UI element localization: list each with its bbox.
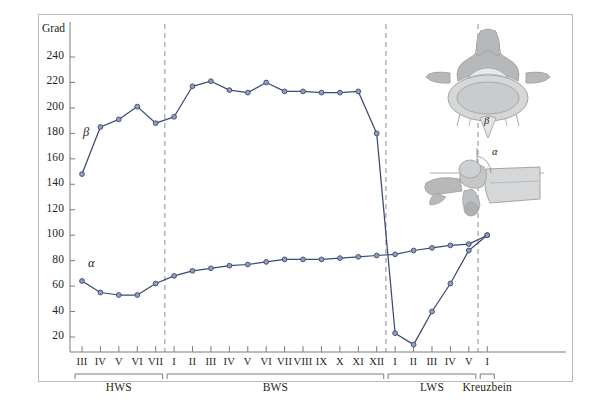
data-point-marker: [172, 114, 177, 119]
data-point-marker: [245, 262, 250, 267]
data-point-marker: [485, 233, 490, 238]
data-point-marker: [301, 257, 306, 262]
data-point-marker: [264, 260, 269, 265]
data-point-marker: [411, 248, 416, 253]
chart-canvas: [0, 0, 613, 413]
data-point-marker: [264, 80, 269, 85]
data-point-marker: [356, 89, 361, 94]
data-point-marker: [80, 172, 85, 177]
data-point-marker: [98, 290, 103, 295]
region-bracket: [388, 374, 476, 379]
data-point-marker: [282, 89, 287, 94]
data-point-marker: [301, 89, 306, 94]
data-point-marker: [209, 79, 214, 84]
bracket-layer: [75, 374, 494, 379]
data-point-marker: [153, 281, 158, 286]
data-point-marker: [319, 90, 324, 95]
vertebra-lateral-view: [425, 148, 544, 216]
data-point-marker: [430, 309, 435, 314]
data-point-marker: [282, 257, 287, 262]
data-point-marker: [227, 263, 232, 268]
series-line-α: [82, 235, 487, 295]
region-bracket: [480, 374, 494, 379]
data-point-marker: [374, 131, 379, 136]
data-point-marker: [393, 331, 398, 336]
data-point-marker: [172, 274, 177, 279]
data-point-marker: [135, 104, 140, 109]
data-point-marker: [356, 254, 361, 259]
data-point-marker: [374, 253, 379, 258]
beta-curve-label: β: [83, 125, 89, 140]
data-point-marker: [98, 125, 103, 130]
data-point-marker: [430, 246, 435, 251]
series-line-β: [82, 81, 487, 344]
alpha-curve-label: α: [88, 256, 95, 271]
data-point-marker: [448, 243, 453, 248]
data-point-marker: [393, 252, 398, 257]
data-point-marker: [319, 257, 324, 262]
y-axis-unit-label: Grad: [42, 22, 65, 34]
data-point-marker: [153, 121, 158, 126]
series-layer: [80, 79, 490, 347]
data-point-marker: [135, 293, 140, 298]
data-point-marker: [245, 90, 250, 95]
data-point-marker: [466, 248, 471, 253]
alpha-angle-label-on-illustration: α: [492, 146, 498, 157]
data-point-marker: [448, 281, 453, 286]
data-point-marker: [338, 256, 343, 261]
data-point-marker: [338, 90, 343, 95]
data-point-marker: [411, 342, 416, 347]
beta-angle-label-on-illustration: β: [484, 115, 489, 126]
data-point-marker: [116, 117, 121, 122]
data-point-marker: [190, 84, 195, 89]
figure-root: 24022020018016014012010080604020IIIIVVVI…: [0, 0, 613, 413]
data-point-marker: [209, 266, 214, 271]
data-point-marker: [80, 279, 85, 284]
region-bracket: [167, 374, 384, 379]
data-point-marker: [466, 242, 471, 247]
data-point-marker: [190, 268, 195, 273]
region-bracket: [75, 374, 163, 379]
data-point-marker: [227, 88, 232, 93]
data-point-marker: [116, 293, 121, 298]
